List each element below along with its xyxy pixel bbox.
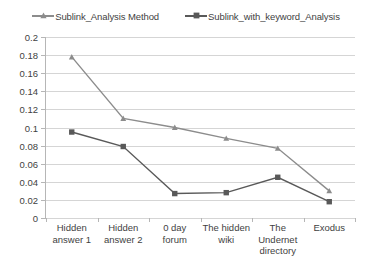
legend-entry-series-2[interactable]: Sublink_with_keyword_Analysis bbox=[185, 11, 340, 22]
data-point-marker bbox=[172, 191, 177, 196]
x-axis-tick bbox=[355, 218, 356, 222]
data-point-marker bbox=[69, 129, 74, 134]
line-chart: Sublink_Analysis Method Sublink_with_key… bbox=[0, 0, 372, 268]
y-axis-tick-label: 0.04 bbox=[0, 176, 41, 187]
data-point-marker bbox=[224, 190, 229, 195]
legend-entry-series-1[interactable]: Sublink_Analysis Method bbox=[32, 11, 159, 22]
y-axis-tick-label: 0.1 bbox=[0, 122, 41, 133]
data-point-marker bbox=[327, 199, 332, 204]
x-axis-labels: Hidden answer 1Hidden answer 20 day foru… bbox=[46, 221, 355, 267]
legend-label-series-2: Sublink_with_keyword_Analysis bbox=[208, 11, 340, 22]
x-axis-tick bbox=[304, 218, 305, 222]
y-axis-tick-label: 0.14 bbox=[0, 86, 41, 97]
x-axis-tick-label: The hidden wiki bbox=[201, 221, 253, 267]
y-axis-tick-label: 0.08 bbox=[0, 140, 41, 151]
data-point-marker bbox=[121, 144, 126, 149]
data-point-marker bbox=[275, 175, 280, 180]
x-axis-tick bbox=[149, 218, 150, 222]
y-axis-tick-label: 0.18 bbox=[0, 50, 41, 61]
y-axis-tick-label: 0 bbox=[0, 213, 41, 224]
series-layer bbox=[46, 37, 355, 218]
y-axis-labels: 0.20.180.160.140.120.10.080.060.040.020 bbox=[0, 0, 41, 268]
series-line bbox=[72, 57, 330, 191]
chart-legend: Sublink_Analysis Method Sublink_with_key… bbox=[0, 6, 372, 26]
y-axis-tick-label: 0.16 bbox=[0, 68, 41, 79]
x-axis-tick bbox=[98, 218, 99, 222]
x-axis-tick-label: Exodus bbox=[304, 221, 356, 267]
series-line bbox=[72, 132, 330, 202]
x-axis-tick-label: 0 day forum bbox=[149, 221, 201, 267]
y-axis-tick-label: 0.12 bbox=[0, 104, 41, 115]
data-point-marker bbox=[69, 54, 75, 59]
y-axis-tick-label: 0.06 bbox=[0, 158, 41, 169]
y-axis-tick-label: 0.02 bbox=[0, 194, 41, 205]
x-axis-tick bbox=[252, 218, 253, 222]
x-axis-tick bbox=[46, 218, 47, 222]
legend-marker-square-icon bbox=[185, 11, 207, 21]
x-axis-tick-label: The Undernet directory bbox=[252, 221, 304, 267]
legend-label-series-1: Sublink_Analysis Method bbox=[55, 11, 159, 22]
y-axis-tick-label: 0.2 bbox=[0, 32, 41, 43]
x-axis-tick-label: Hidden answer 1 bbox=[46, 221, 98, 267]
x-axis-tick bbox=[201, 218, 202, 222]
x-axis-tick-label: Hidden answer 2 bbox=[98, 221, 150, 267]
plot-area bbox=[46, 37, 355, 218]
